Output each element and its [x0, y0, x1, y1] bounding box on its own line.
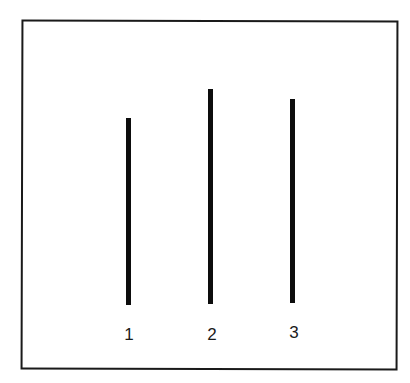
line-2 — [208, 89, 213, 304]
line-3 — [290, 99, 295, 303]
line-3-label: 3 — [282, 323, 306, 343]
line-2-label: 2 — [200, 325, 224, 345]
line-1 — [126, 118, 131, 305]
line-1-label: 1 — [117, 325, 141, 345]
